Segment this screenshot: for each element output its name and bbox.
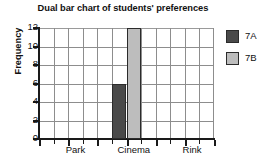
legend-swatch-7a	[226, 30, 239, 43]
x-tick-major	[39, 140, 41, 146]
y-tick-label: 4	[0, 96, 38, 106]
legend-item-7b[interactable]: 7B	[226, 48, 274, 68]
x-axis-label: Cinema	[117, 144, 150, 155]
y-tick-label: 0	[0, 133, 38, 143]
x-tick-major	[156, 140, 158, 146]
legend-label-7a: 7A	[245, 31, 257, 41]
legend-item-7a[interactable]: 7A	[226, 26, 274, 46]
bar-7a-cinema	[112, 84, 127, 140]
chart-title: Dual bar chart of students' preferences	[0, 3, 276, 13]
bar-7b-cinema	[127, 28, 142, 139]
legend: 7A 7B	[226, 26, 274, 70]
y-tick-label: 2	[0, 115, 38, 125]
x-tick-minor	[170, 140, 171, 144]
legend-label-7b: 7B	[245, 53, 257, 63]
x-tick-major	[97, 140, 99, 146]
x-tick-major	[214, 140, 216, 146]
x-tick-minor	[112, 140, 113, 144]
legend-swatch-7b	[226, 52, 239, 65]
y-tick-label: 6	[0, 78, 38, 88]
y-tick-label: 8	[0, 59, 38, 69]
y-axis-line	[38, 27, 40, 140]
y-tick-label: 12	[0, 22, 38, 32]
y-tick-label: 10	[0, 41, 38, 51]
x-tick-minor	[54, 140, 55, 144]
bar-chart: Dual bar chart of students' preferences …	[0, 0, 276, 161]
x-axis-label: Rink	[183, 144, 202, 155]
x-axis-label: Park	[66, 144, 86, 155]
